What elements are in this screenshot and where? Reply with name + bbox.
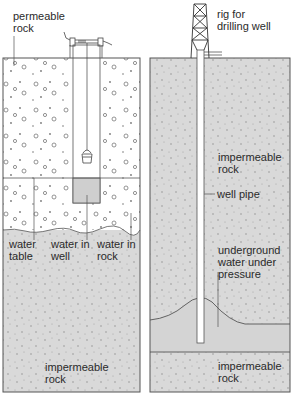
- left-panel: [3, 32, 140, 392]
- label-rig: rig for drilling well: [217, 8, 271, 32]
- label-impermeable-rock-top: impermeable rock: [218, 151, 282, 175]
- label-underground-water: underground water under pressure: [218, 244, 280, 280]
- impermeable-rock-top: [150, 58, 290, 352]
- label-water-in-rock: water in rock: [97, 238, 136, 262]
- well-pipe: [197, 50, 204, 343]
- water-in-well: [73, 178, 100, 203]
- label-permeable-rock: permeable rock: [13, 10, 65, 34]
- windlass-icon: [64, 32, 112, 46]
- well-diagram: [0, 0, 295, 403]
- label-water-in-well: water in well: [51, 238, 90, 262]
- label-well-pipe: well pipe: [217, 188, 260, 200]
- label-impermeable-rock-bottom: impermeable rock: [218, 360, 282, 384]
- label-water-table: water table: [9, 238, 36, 262]
- label-impermeable-rock-left: impermeable rock: [45, 361, 109, 385]
